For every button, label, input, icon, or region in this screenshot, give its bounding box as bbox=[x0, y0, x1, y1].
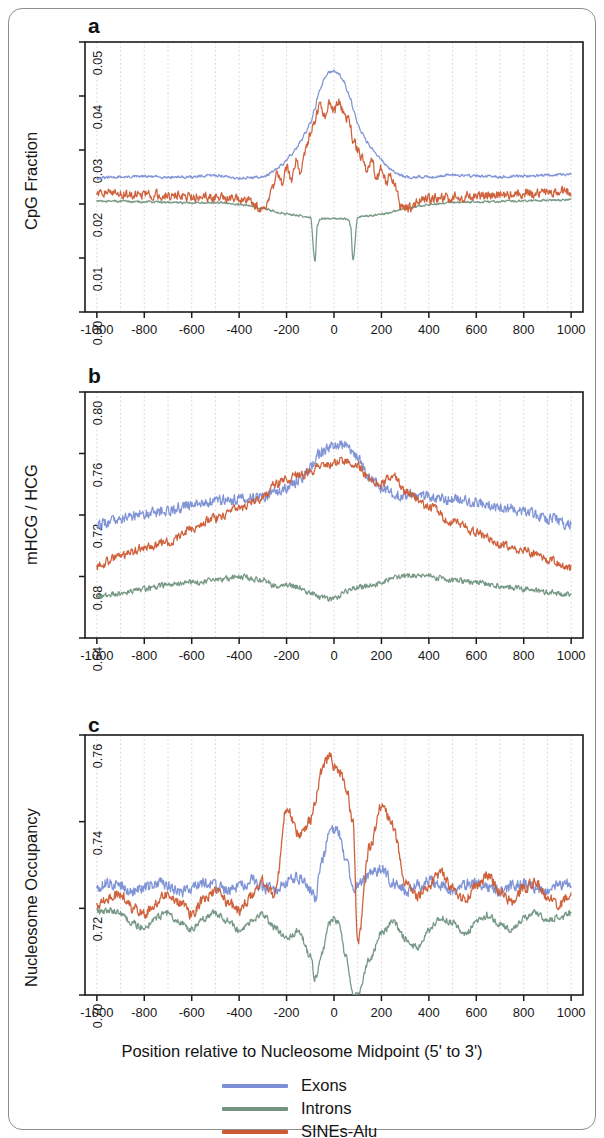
panel-c-plot bbox=[0, 695, 604, 1055]
legend-item-exons: Exons bbox=[0, 1074, 604, 1097]
legend-swatch-introns bbox=[222, 1107, 288, 1111]
x-axis-title: Position relative to Nucleosome Midpoint… bbox=[0, 1042, 604, 1061]
panel-b: b mHCG / HCG 0.640.680.720.760.80 -1000-… bbox=[0, 350, 604, 695]
legend: ExonsIntronsSINEs-Alu bbox=[0, 1074, 604, 1138]
panel-c: c Nucleosome Occupancy 0.700.720.740.76 … bbox=[0, 695, 604, 1055]
legend-swatch-sines_alu bbox=[222, 1130, 288, 1134]
panel-a: a CpG Fraction 0.000.010.020.030.040.05 … bbox=[0, 0, 604, 350]
xtick-label: 1000 bbox=[541, 322, 601, 337]
panel-a-plot bbox=[0, 0, 604, 350]
legend-swatch-exons bbox=[222, 1084, 288, 1088]
panel-b-plot bbox=[0, 350, 604, 695]
legend-item-sines_alu: SINEs-Alu bbox=[0, 1120, 604, 1138]
xtick-label: 1000 bbox=[541, 1005, 601, 1020]
legend-label-exons: Exons bbox=[301, 1077, 347, 1094]
legend-label-introns: Introns bbox=[301, 1100, 351, 1117]
xtick-label: 1000 bbox=[541, 648, 601, 663]
legend-label-sines_alu: SINEs-Alu bbox=[301, 1123, 377, 1138]
legend-item-introns: Introns bbox=[0, 1097, 604, 1120]
